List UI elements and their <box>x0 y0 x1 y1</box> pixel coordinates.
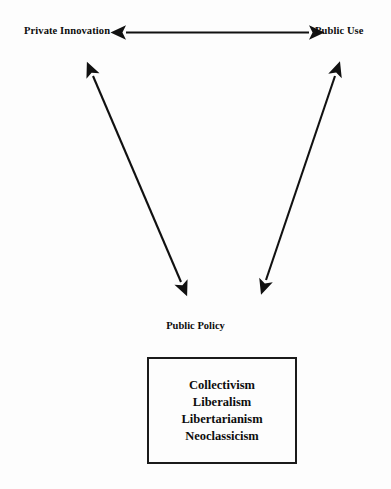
list-item: Collectivism <box>181 377 262 394</box>
public-use-label: Public Use <box>315 26 364 37</box>
private-innovation-label: Private Innovation <box>24 26 110 37</box>
left-diagonal-arrow <box>93 76 181 282</box>
list-item: Neoclassicism <box>181 428 262 445</box>
public-policy-box: Collectivism Liberalism Libertarianism N… <box>147 357 297 464</box>
policy-ideology-list: Collectivism Liberalism Libertarianism N… <box>181 377 262 445</box>
right-diagonal-arrow <box>266 76 335 280</box>
list-item: Libertarianism <box>181 411 262 428</box>
public-policy-heading: Public Policy <box>0 321 391 332</box>
diagram-canvas: Private Innovation Public Use Public Pol… <box>0 0 391 489</box>
list-item: Liberalism <box>181 394 262 411</box>
